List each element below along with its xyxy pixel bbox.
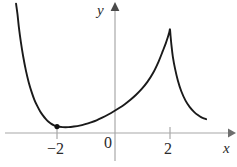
x-axis-label: x: [223, 141, 230, 156]
x-axis-arrow-icon: [228, 129, 236, 138]
graph-figure: y x 0 −2 2: [0, 0, 237, 167]
origin-label: 0: [104, 135, 112, 151]
minimum-point-marker: [54, 124, 59, 129]
x-tick-label-neg2: −2: [47, 141, 64, 157]
plot-canvas: [0, 0, 237, 167]
function-curve: [16, 4, 206, 128]
x-tick-label-pos2: 2: [164, 141, 172, 157]
y-axis-label: y: [97, 3, 104, 18]
y-axis-arrow-icon: [111, 2, 120, 11]
